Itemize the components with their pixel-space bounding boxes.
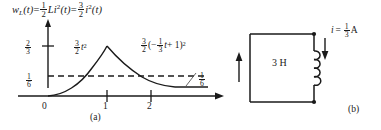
x-tick-label-1: 1 xyxy=(103,101,108,111)
equation-current-2-arg: (t) xyxy=(92,4,102,15)
node-dot-bottom xyxy=(312,100,316,104)
equation-equals-1: = xyxy=(33,4,39,15)
annotation-rising-expression: 32t2 xyxy=(73,40,87,57)
figure-root: wL(t)=12Li2(t)=32i2(t) xyxy=(0,0,381,130)
plot-area: 23 16 0 1 2 32t2 32(−13t+ 1)2 16 xyxy=(0,16,232,111)
current-value-label: i = 13A xyxy=(331,23,358,40)
node-dot-top xyxy=(312,32,316,36)
panel-label-b: (b) xyxy=(348,104,359,114)
y-tick-label-one-sixth: 16 xyxy=(25,73,33,90)
y-axis xyxy=(42,19,54,88)
panel-label-a: (a) xyxy=(90,112,101,122)
energy-plot-panel: wL(t)=12Li2(t)=32i2(t) xyxy=(0,0,232,130)
x-tick-label-0: 0 xyxy=(42,101,47,111)
annotation-falling-expression: 32(−13t+ 1)2 xyxy=(140,38,186,55)
inductor-value-label: 3 H xyxy=(272,57,287,68)
left-current-arrow-icon xyxy=(236,52,243,82)
circuit-loop-wires xyxy=(250,34,314,102)
plot-svg xyxy=(0,16,232,111)
x-tick-label-2: 2 xyxy=(147,101,152,111)
tail-leader-line xyxy=(186,73,196,86)
equation-lhs-arg: (t) xyxy=(23,4,33,15)
right-current-arrow-icon xyxy=(322,38,329,60)
circuit-panel: 3 H i = 13A (b) xyxy=(232,0,381,130)
equation-equals-2: = xyxy=(71,4,77,15)
equation-current-1-arg: (t) xyxy=(61,4,71,15)
inductor-coil-icon xyxy=(314,51,321,85)
annotation-tail-value: 16 xyxy=(198,72,206,89)
y-tick-label-two-thirds: 23 xyxy=(24,40,32,57)
